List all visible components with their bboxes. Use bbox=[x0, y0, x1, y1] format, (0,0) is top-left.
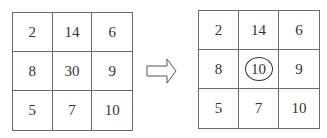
grid-cell: 10 bbox=[92, 91, 132, 130]
hollow-right-arrow-icon bbox=[146, 58, 178, 84]
grid-cell: 2 bbox=[199, 11, 239, 50]
grid-cell: 2 bbox=[13, 13, 53, 52]
grid-cell: 6 bbox=[92, 13, 132, 52]
grid-cell: 10 bbox=[279, 89, 319, 128]
grid-cell: 9 bbox=[92, 52, 132, 91]
grid-cell-center-circled: 10 bbox=[239, 50, 279, 89]
grid-cell-center: 30 bbox=[53, 52, 93, 91]
grid-cell: 14 bbox=[53, 13, 93, 52]
input-grid: 2 14 6 8 30 9 5 7 10 bbox=[12, 12, 133, 131]
output-grid: 2 14 6 8 10 9 5 7 10 bbox=[198, 10, 320, 129]
grid-cell: 8 bbox=[13, 52, 53, 91]
grid-cell: 14 bbox=[239, 11, 279, 50]
grid-cell: 5 bbox=[13, 91, 53, 130]
grid-cell: 7 bbox=[239, 89, 279, 128]
grid-cell: 8 bbox=[199, 50, 239, 89]
grid-cell: 7 bbox=[53, 91, 93, 130]
grid-cell: 5 bbox=[199, 89, 239, 128]
grid-cell: 9 bbox=[279, 50, 319, 89]
grid-cell: 6 bbox=[279, 11, 319, 50]
